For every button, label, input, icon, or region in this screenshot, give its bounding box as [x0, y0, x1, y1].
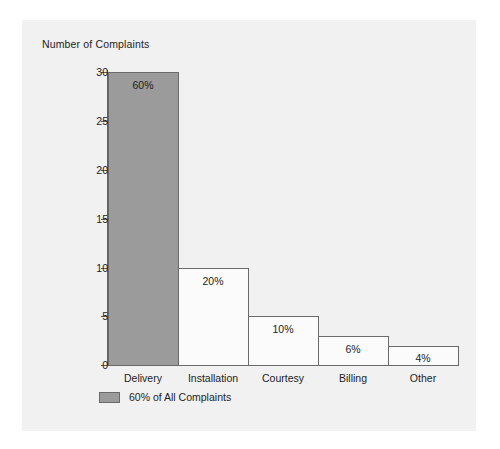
y-tick-25: 25	[62, 121, 108, 122]
bar-delivery[interactable]	[108, 72, 179, 366]
bar-value-delivery: 60%	[132, 79, 153, 91]
bar-value-courtesy: 10%	[272, 323, 293, 335]
y-tick-5: 5	[62, 316, 108, 317]
y-tick-15: 15	[62, 219, 108, 220]
legend-swatch-highlight	[99, 392, 120, 403]
legend-label: 60% of All Complaints	[129, 391, 231, 403]
figure: Number of Complaints 0 5 10 15 20 25	[0, 0, 500, 449]
y-tick-label: 20	[82, 164, 108, 176]
x-label-courtesy: Courtesy	[262, 372, 304, 384]
plot-area: 0 5 10 15 20 25 30	[0, 0, 500, 449]
y-tick-10: 10	[62, 268, 108, 269]
x-label-delivery: Delivery	[124, 372, 162, 384]
x-label-other: Other	[410, 372, 436, 384]
y-tick-20: 20	[62, 170, 108, 171]
bar-value-other: 4%	[415, 352, 430, 364]
y-tick-0: 0	[62, 365, 108, 366]
y-tick-label: 10	[82, 262, 108, 274]
bar-value-billing: 6%	[345, 343, 360, 355]
y-tick-label: 25	[82, 115, 108, 127]
y-tick-label: 0	[82, 359, 108, 371]
y-tick-label: 30	[82, 66, 108, 78]
x-label-installation: Installation	[188, 372, 238, 384]
y-tick-label: 5	[82, 310, 108, 322]
y-tick-30: 30	[62, 72, 108, 73]
legend: 60% of All Complaints	[99, 391, 231, 403]
x-label-billing: Billing	[339, 372, 367, 384]
y-tick-label: 15	[82, 213, 108, 225]
bar-value-installation: 20%	[202, 275, 223, 287]
